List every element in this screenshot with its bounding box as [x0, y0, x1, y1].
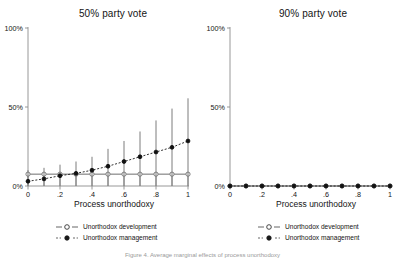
legend-left: Unorthodox development Unorthodox manage… [0, 221, 202, 243]
filled-circle-icon [324, 184, 328, 188]
plot-area-left: 0%50%100%0.2.4.6.81 [0, 0, 202, 215]
legend-label-unorthodox-management: Unorthodox management [285, 233, 359, 243]
x-tick-label: 0 [26, 190, 30, 199]
x-tick-label: .6 [323, 190, 329, 199]
filled-circle-icon [308, 184, 312, 188]
y-tick-label: 50% [211, 103, 226, 112]
x-axis-label-right: Process unorthodoxy [215, 199, 405, 209]
filled-circle-icon [388, 184, 392, 188]
x-tick-label: .4 [291, 190, 297, 199]
figure-footnote: Figure 4. Average marginal effects of pr… [0, 252, 405, 259]
x-tick-label: .2 [57, 190, 63, 199]
legend-right: Unorthodox development Unorthodox manage… [202, 221, 404, 243]
series-unorthodox-management [228, 184, 392, 188]
filled-circle-icon [258, 233, 280, 243]
filled-circle-icon [228, 184, 232, 188]
x-tick-label: 0 [228, 190, 232, 199]
legend-label-unorthodox-development: Unorthodox development [285, 222, 359, 232]
filled-circle-icon [138, 155, 142, 159]
legend-label-unorthodox-management: Unorthodox management [83, 233, 157, 243]
legend-item-unorthodox-management[interactable]: Unorthodox management [0, 232, 202, 243]
filled-circle-icon [186, 139, 190, 143]
filled-circle-icon [122, 160, 126, 164]
x-tick-label: .2 [259, 190, 265, 199]
open-circle-icon [56, 222, 78, 232]
filled-circle-icon [74, 171, 78, 175]
filled-circle-icon [26, 179, 30, 183]
filled-circle-icon [56, 233, 78, 243]
filled-circle-icon [340, 184, 344, 188]
y-tick-label: 100% [207, 24, 226, 33]
chart-panel-90-party-vote: 90% party vote 0%50%100%0.2.4.6.81 Proce… [202, 0, 404, 259]
figure-container: 50% party vote 0%50%100%0.2.4.6.81 Proce… [0, 0, 405, 259]
x-tick-label: 1 [186, 190, 190, 199]
y-tick-label: 50% [9, 103, 24, 112]
x-tick-label: .6 [121, 190, 127, 199]
filled-circle-icon [170, 145, 174, 149]
filled-circle-icon [372, 184, 376, 188]
filled-circle-icon [90, 168, 94, 172]
legend-item-unorthodox-development[interactable]: Unorthodox development [0, 221, 202, 232]
filled-circle-icon [276, 184, 280, 188]
chart-panel-50-party-vote: 50% party vote 0%50%100%0.2.4.6.81 Proce… [0, 0, 202, 259]
filled-circle-icon [292, 184, 296, 188]
x-tick-label: .8 [153, 190, 159, 199]
filled-circle-icon [106, 164, 110, 168]
filled-circle-icon [260, 184, 264, 188]
filled-circle-icon [356, 184, 360, 188]
filled-circle-icon [58, 174, 62, 178]
series-unorthodox-management [26, 98, 190, 186]
x-tick-label: .4 [89, 190, 95, 199]
legend-item-unorthodox-development[interactable]: Unorthodox development [202, 221, 404, 232]
y-tick-label: 0% [13, 182, 24, 191]
y-tick-label: 100% [5, 24, 24, 33]
x-axis-label-left: Process unorthodoxy [13, 199, 215, 209]
filled-circle-icon [42, 177, 46, 181]
plot-area-right: 0%50%100%0.2.4.6.81 [202, 0, 404, 215]
legend-item-unorthodox-management[interactable]: Unorthodox management [202, 232, 404, 243]
y-tick-label: 0% [215, 182, 226, 191]
open-circle-icon [258, 222, 280, 232]
x-tick-label: 1 [388, 190, 392, 199]
legend-label-unorthodox-development: Unorthodox development [83, 222, 157, 232]
filled-circle-icon [244, 184, 248, 188]
filled-circle-icon [154, 150, 158, 154]
x-tick-label: .8 [355, 190, 361, 199]
